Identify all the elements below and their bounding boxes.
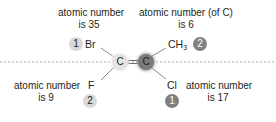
cl-atom: Cl [167, 79, 177, 91]
ch3-atom: CH3 [168, 38, 187, 50]
bond-f [101, 67, 114, 80]
left-carbon-atom: C [112, 54, 128, 70]
ch3-atomic-number-label: atomic number (of C) is 6 [136, 7, 236, 31]
ch3-symbol: CH [168, 38, 183, 50]
ch3-subscript: 3 [183, 44, 187, 51]
br-label-line2: is 35 [58, 19, 120, 31]
f-label-line1: atomic number [14, 80, 78, 92]
cl-atomic-number-label: atomic number is 17 [186, 80, 250, 104]
ch3-label-line2: is 6 [136, 19, 236, 31]
cl-priority-badge: 1 [165, 94, 179, 108]
cl-label-line1: atomic number [186, 80, 250, 92]
right-carbon-atom: C [138, 54, 154, 70]
br-label-line1: atomic number [58, 7, 120, 19]
bond-ch3 [152, 48, 166, 56]
f-atomic-number-label: atomic number is 9 [14, 80, 78, 104]
br-priority-badge: 1 [69, 37, 83, 51]
br-atom: Br [85, 38, 96, 50]
f-priority-badge: 2 [83, 94, 97, 108]
br-atomic-number-label: atomic number is 35 [58, 7, 120, 31]
f-label-line2: is 9 [14, 92, 78, 104]
cl-label-line2: is 17 [186, 92, 250, 104]
bond-br [101, 48, 114, 57]
f-atom: F [88, 79, 94, 91]
bond-cl [152, 68, 166, 79]
ch3-priority-badge: 2 [193, 37, 207, 51]
ch3-label-line1: atomic number (of C) [136, 7, 236, 19]
